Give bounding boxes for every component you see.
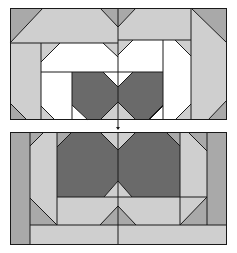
down-arrow-icon [116,120,120,130]
quilt-patch-dark [118,132,180,197]
quilt-patch-mid [10,132,30,245]
quilt-diagram: Quilt block layout — two colorway varian… [0,0,237,253]
quilt-patch-dark [57,132,118,197]
quilt-canvas [0,0,237,253]
top-panel [10,8,227,120]
bottom-panel [10,132,227,245]
quilt-patch-light [30,225,227,245]
quilt-patch-mid [207,132,227,225]
